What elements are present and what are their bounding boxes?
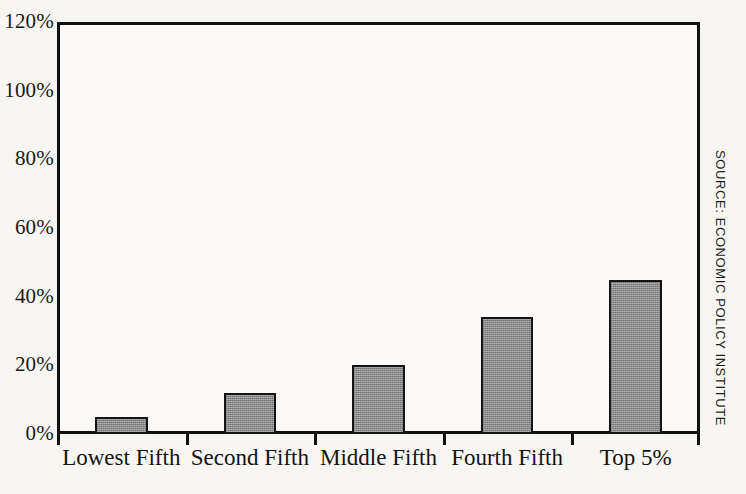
y-tick-label: 0%: [2, 423, 54, 444]
source-note-text: SOURCE: ECONOMIC POLICY INSTITUTE: [713, 150, 728, 470]
y-tick-label: 40%: [2, 286, 54, 307]
x-tick: [443, 434, 446, 445]
x-axis-category-label: Middle Fifth: [314, 446, 443, 470]
x-axis-labels: Lowest FifthSecond FifthMiddle FifthFour…: [57, 446, 700, 486]
bar: [481, 317, 534, 434]
x-tick: [697, 434, 700, 445]
x-tick: [571, 434, 574, 445]
y-axis: 120%100%80%60%40%20%0%: [0, 0, 54, 494]
y-tick-label: 20%: [2, 354, 54, 375]
x-axis-category-label: Top 5%: [571, 446, 700, 470]
y-tick-label: 80%: [2, 148, 54, 169]
y-tick-label: 100%: [2, 80, 54, 101]
x-tick: [314, 434, 317, 445]
x-tick: [186, 434, 189, 445]
x-axis-category-label: Fourth Fifth: [443, 446, 572, 470]
bar: [352, 365, 405, 434]
bar: [224, 393, 277, 434]
source-note: SOURCE: ECONOMIC POLICY INSTITUTE: [713, 0, 728, 150]
chart-page: 120%100%80%60%40%20%0% Lowest FifthSecon…: [0, 0, 746, 494]
bar: [95, 417, 148, 434]
x-axis-category-label: Lowest Fifth: [57, 446, 186, 470]
bars-layer: [57, 22, 700, 434]
bar: [609, 280, 662, 435]
x-axis-category-label: Second Fifth: [186, 446, 315, 470]
y-tick-label: 120%: [2, 11, 54, 32]
x-tick: [57, 434, 60, 445]
y-tick-label: 60%: [2, 217, 54, 238]
